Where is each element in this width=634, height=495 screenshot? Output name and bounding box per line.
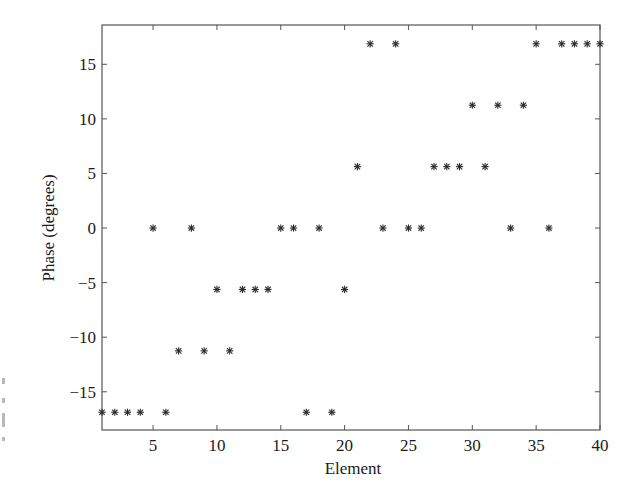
asterisk-marker-icon (341, 286, 348, 293)
asterisk-marker-icon (277, 224, 284, 231)
asterisk-marker-icon (456, 163, 463, 170)
asterisk-marker-icon (328, 409, 335, 416)
asterisk-marker-icon (124, 409, 131, 416)
y-tick-label: −10 (69, 328, 96, 347)
y-tick-label: 0 (88, 219, 97, 238)
asterisk-marker-icon (303, 409, 310, 416)
cropped-text-fragment (2, 398, 5, 403)
asterisk-marker-icon (469, 102, 476, 109)
asterisk-marker-icon (239, 286, 246, 293)
plot-frame (102, 25, 600, 430)
asterisk-marker-icon (98, 409, 105, 416)
asterisk-marker-icon (201, 347, 208, 354)
phase-scatter-chart: 510152025303540 −15−10−5051015 Element P… (0, 0, 634, 495)
asterisk-marker-icon (379, 224, 386, 231)
asterisk-marker-icon (213, 286, 220, 293)
asterisk-marker-icon (545, 224, 552, 231)
asterisk-marker-icon (149, 224, 156, 231)
cropped-text-fragment (2, 437, 5, 441)
asterisk-marker-icon (596, 40, 603, 47)
x-tick-label: 10 (208, 436, 225, 455)
asterisk-marker-icon (533, 40, 540, 47)
asterisk-marker-icon (137, 409, 144, 416)
y-tick-label: 5 (88, 164, 97, 183)
x-tick-label: 40 (592, 436, 609, 455)
y-axis-ticks: −15−10−5051015 (69, 55, 600, 401)
chart-canvas: 510152025303540 −15−10−5051015 Element P… (0, 0, 634, 495)
asterisk-marker-icon (226, 347, 233, 354)
asterisk-marker-icon (367, 40, 374, 47)
asterisk-marker-icon (558, 40, 565, 47)
data-points (98, 40, 603, 416)
asterisk-marker-icon (481, 163, 488, 170)
x-axis-label: Element (325, 459, 382, 478)
asterisk-marker-icon (315, 224, 322, 231)
asterisk-marker-icon (418, 224, 425, 231)
y-tick-label: −15 (69, 383, 96, 402)
x-tick-label: 35 (528, 436, 545, 455)
x-tick-label: 20 (336, 436, 353, 455)
asterisk-marker-icon (443, 163, 450, 170)
y-tick-label: 15 (79, 55, 96, 74)
asterisk-marker-icon (264, 286, 271, 293)
x-tick-label: 30 (464, 436, 481, 455)
y-tick-label: −5 (78, 274, 96, 293)
x-tick-label: 15 (272, 436, 289, 455)
asterisk-marker-icon (252, 286, 259, 293)
asterisk-marker-icon (111, 409, 118, 416)
asterisk-marker-icon (405, 224, 412, 231)
asterisk-marker-icon (494, 102, 501, 109)
asterisk-marker-icon (162, 409, 169, 416)
x-axis-ticks: 510152025303540 (149, 25, 609, 455)
x-tick-label: 5 (149, 436, 158, 455)
asterisk-marker-icon (354, 163, 361, 170)
asterisk-marker-icon (584, 40, 591, 47)
asterisk-marker-icon (507, 224, 514, 231)
cropped-text-fragment (2, 413, 5, 427)
asterisk-marker-icon (571, 40, 578, 47)
asterisk-marker-icon (188, 224, 195, 231)
y-tick-label: 10 (79, 110, 96, 129)
asterisk-marker-icon (175, 347, 182, 354)
cropped-text-fragment (2, 378, 5, 384)
asterisk-marker-icon (520, 102, 527, 109)
x-tick-label: 25 (400, 436, 417, 455)
asterisk-marker-icon (290, 224, 297, 231)
asterisk-marker-icon (392, 40, 399, 47)
y-axis-label: Phase (degrees) (39, 174, 58, 281)
asterisk-marker-icon (430, 163, 437, 170)
